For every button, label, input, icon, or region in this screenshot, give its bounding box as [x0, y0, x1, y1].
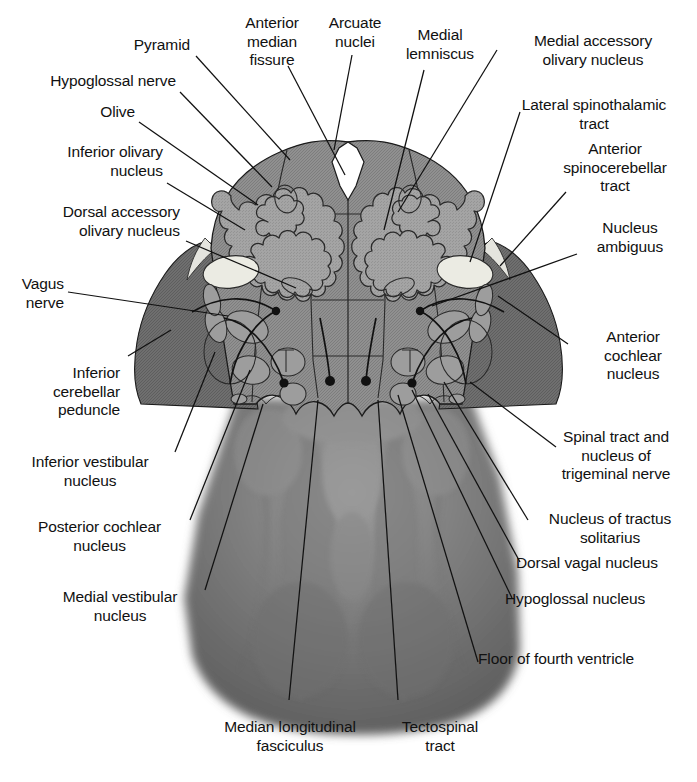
label-nucleus-tractus-solitarius: Nucleus of tractus solitarius — [528, 510, 692, 547]
label-medial-lemniscus: Medial lemniscus — [400, 26, 480, 63]
label-inferior-olivary-nucleus: Inferior olivary nucleus — [8, 143, 163, 180]
label-anterior-spinocerebellar-tract: Anterior spinocerebellar tract — [540, 140, 690, 196]
leader-arcuate-nuclei — [334, 55, 352, 150]
dot-ventral-right-inner — [361, 376, 371, 386]
label-spinal-tract-trigeminal: Spinal tract and nucleus of trigeminal n… — [540, 428, 692, 484]
dot-ventral-left-inner — [325, 376, 335, 386]
label-anterior-median-fissure: Anterior median fissure — [232, 14, 312, 70]
label-pyramid: Pyramid — [20, 36, 190, 55]
label-medial-vestibular-nucleus: Medial vestibular nucleus — [44, 588, 196, 625]
label-hypoglossal-nucleus: Hypoglossal nucleus — [505, 590, 691, 609]
label-tectospinal-tract: Tectospinal tract — [382, 718, 498, 755]
label-posterior-cochlear-nucleus: Posterior cochlear nucleus — [22, 518, 177, 555]
label-lateral-spinothalamic-tract: Lateral spinothalamic tract — [496, 96, 692, 133]
dot-hypoglossal-root-left — [272, 307, 280, 315]
leader-anterior-spinocerebellar-tract — [500, 192, 566, 266]
label-floor-fourth-ventricle: Floor of fourth ventricle — [478, 650, 692, 669]
label-vagus-nerve: Vagus nerve — [8, 275, 64, 312]
leader-lateral-spinothalamic-tract — [470, 112, 520, 262]
label-arcuate-nuclei: Arcuate nuclei — [318, 14, 392, 51]
figure-canvas: Pyramid Hypoglossal nerve Olive Inferior… — [0, 0, 697, 782]
label-dorsal-vagal-nucleus: Dorsal vagal nucleus — [516, 554, 694, 573]
label-anterior-cochlear-nucleus: Anterior cochlear nucleus — [578, 328, 688, 384]
cerebellum-photographic-region — [184, 392, 520, 735]
dot-ventral-right-outer — [407, 378, 416, 387]
label-hypoglossal-nerve: Hypoglossal nerve — [0, 72, 176, 91]
label-dorsal-accessory-olivary-nucleus: Dorsal accessory olivary nucleus — [8, 203, 180, 240]
label-nucleus-ambiguus: Nucleus ambiguus — [570, 219, 690, 256]
label-inferior-cerebellar-peduncle: Inferior cerebellar peduncle — [8, 364, 120, 420]
label-medial-accessory-olivary-nucleus: Medial accessory olivary nucleus — [497, 32, 689, 69]
dot-hypoglossal-root-right — [416, 307, 424, 315]
label-median-longitudinal-fasciculus: Median longitudinal fasciculus — [196, 718, 384, 755]
label-olive: Olive — [20, 103, 135, 122]
leader-pyramid — [196, 56, 290, 160]
label-inferior-vestibular-nucleus: Inferior vestibular nucleus — [14, 453, 166, 490]
dot-ventral-left-outer — [279, 378, 288, 387]
leader-hypoglossal-nerve — [180, 92, 272, 187]
